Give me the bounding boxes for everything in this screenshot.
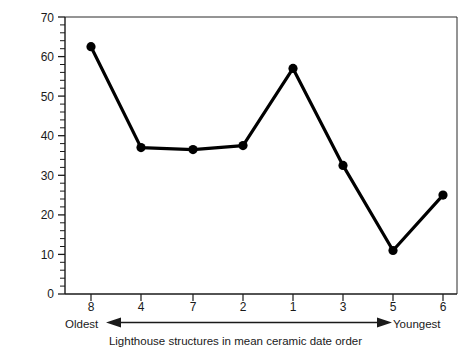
- data-point: [86, 42, 95, 51]
- chart-canvas: [0, 0, 471, 357]
- y-minor-ticks: [60, 25, 65, 286]
- data-point: [388, 246, 397, 255]
- data-point: [438, 191, 447, 200]
- data-point: [238, 141, 247, 150]
- chart-figure: Percentage of hollowware 70 60 50 40 30 …: [0, 0, 471, 357]
- data-point: [288, 64, 297, 73]
- data-point: [136, 143, 145, 152]
- plot-frame: [65, 17, 457, 294]
- direction-arrow-icon: [106, 318, 392, 328]
- data-point: [188, 145, 197, 154]
- y-major-ticks: [58, 17, 65, 294]
- data-point: [338, 161, 347, 170]
- x-ticks: [91, 294, 443, 301]
- data-point-markers: [86, 42, 447, 255]
